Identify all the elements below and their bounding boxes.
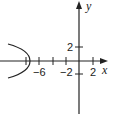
tick-label-neg2: −2 — [60, 66, 73, 78]
y-axis-arrow-icon — [76, 1, 82, 9]
y-axis-label: y — [85, 0, 92, 13]
x-axis-label: x — [101, 63, 108, 77]
tick-label-pos2-x: 2 — [90, 66, 96, 78]
tick-label-neg6: −6 — [33, 66, 46, 78]
coordinate-plane: −6 −2 2 2 x y — [0, 0, 113, 114]
tick-label-pos2-y: 2 — [67, 41, 73, 53]
